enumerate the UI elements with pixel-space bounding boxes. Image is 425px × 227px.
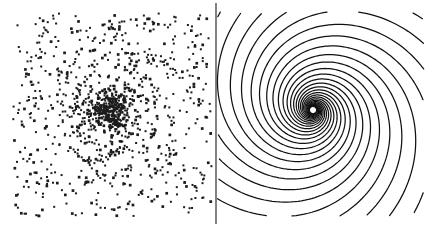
data-point: [162, 61, 164, 63]
data-point: [99, 112, 101, 114]
data-point: [130, 59, 133, 62]
data-point: [24, 68, 27, 71]
data-point: [118, 21, 120, 23]
data-point: [80, 140, 82, 142]
data-point: [98, 91, 101, 94]
data-point: [133, 69, 135, 71]
data-point: [191, 207, 193, 209]
data-point: [103, 39, 105, 41]
data-point: [45, 70, 47, 72]
data-point: [75, 214, 77, 216]
data-point: [202, 60, 204, 62]
data-point: [97, 175, 99, 177]
data-point: [54, 171, 56, 173]
data-point: [173, 122, 175, 124]
data-point: [113, 88, 116, 91]
data-point: [118, 25, 121, 28]
data-point: [67, 82, 69, 84]
data-point: [58, 74, 61, 77]
data-point: [147, 54, 149, 56]
data-point: [76, 125, 79, 128]
data-point: [104, 106, 107, 109]
data-point: [135, 142, 137, 144]
data-point: [99, 177, 101, 179]
data-point: [93, 125, 95, 127]
data-point: [108, 116, 110, 118]
data-point: [97, 192, 99, 194]
data-point: [152, 134, 155, 137]
data-point: [99, 149, 102, 152]
data-point: [46, 168, 48, 170]
data-point: [111, 97, 114, 100]
data-point: [115, 172, 117, 174]
data-point: [45, 148, 47, 150]
data-point: [100, 105, 102, 107]
data-point: [83, 81, 85, 83]
data-point: [105, 96, 108, 99]
data-point: [199, 172, 201, 174]
data-point: [30, 81, 33, 84]
data-point: [116, 111, 118, 113]
data-point: [168, 106, 170, 108]
data-point: [40, 95, 42, 97]
data-point: [86, 112, 88, 114]
data-point: [139, 129, 141, 131]
data-point: [127, 114, 129, 116]
data-point: [115, 39, 117, 41]
data-point: [125, 208, 127, 210]
data-point: [50, 104, 52, 106]
data-point: [157, 147, 159, 149]
data-point: [157, 118, 159, 120]
data-point: [172, 116, 174, 118]
data-point: [186, 111, 188, 113]
data-point: [128, 105, 130, 107]
data-point: [192, 184, 194, 186]
data-point: [170, 201, 172, 203]
data-point: [38, 35, 40, 37]
data-point: [51, 107, 54, 110]
data-point: [145, 159, 148, 162]
data-point: [114, 66, 117, 69]
data-point: [77, 88, 79, 90]
data-point: [79, 113, 81, 115]
data-point: [123, 114, 125, 116]
data-point: [116, 105, 118, 107]
figure-canvas: [0, 0, 425, 227]
data-point: [105, 91, 108, 94]
data-point: [128, 136, 130, 138]
data-point: [107, 59, 109, 61]
data-point: [123, 105, 125, 107]
data-point: [55, 23, 57, 25]
data-point: [102, 98, 104, 100]
data-point: [29, 173, 32, 176]
data-point: [107, 120, 110, 123]
data-point: [174, 35, 176, 37]
data-point: [57, 68, 59, 70]
data-point: [172, 74, 174, 76]
data-point: [14, 167, 17, 170]
data-point: [113, 208, 116, 211]
data-point: [147, 100, 149, 102]
data-point: [41, 51, 43, 53]
data-point: [174, 69, 176, 71]
data-point: [170, 57, 172, 59]
data-point: [167, 115, 169, 117]
data-point: [186, 70, 188, 72]
data-point: [119, 146, 121, 148]
data-point: [69, 183, 71, 185]
data-point: [131, 89, 133, 91]
data-point: [122, 183, 124, 185]
data-point: [105, 117, 107, 119]
data-point: [40, 97, 43, 100]
data-point: [188, 127, 190, 129]
data-point: [129, 184, 132, 187]
data-point: [13, 106, 15, 108]
data-point: [87, 97, 89, 99]
data-point: [36, 149, 39, 152]
data-point: [156, 170, 158, 172]
data-point: [136, 133, 139, 136]
data-point: [104, 100, 106, 102]
data-point: [71, 31, 74, 34]
data-point: [166, 73, 168, 75]
data-point: [65, 94, 67, 96]
